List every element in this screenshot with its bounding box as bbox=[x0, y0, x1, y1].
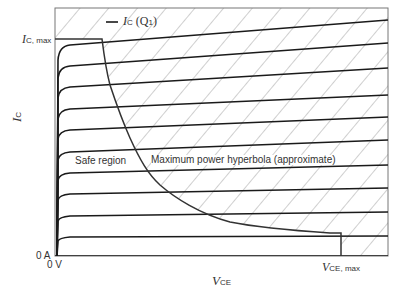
legend-close: ) bbox=[153, 14, 157, 28]
x-axis-sub: CE bbox=[220, 278, 231, 287]
safe-region-label: Safe region bbox=[75, 156, 126, 166]
y-axis-main: I bbox=[9, 118, 24, 122]
x-axis-main: V bbox=[212, 273, 220, 288]
zero-volt-label: 0 V bbox=[47, 260, 62, 270]
legend-sub: C bbox=[127, 18, 133, 27]
hyperbola-label: Maximum power hyperbola (approximate) bbox=[151, 155, 336, 165]
soa-diagram bbox=[0, 0, 397, 290]
y-axis-sub: C bbox=[14, 112, 23, 118]
ic-max-sub: C, max bbox=[26, 36, 51, 45]
y-axis-label: IC bbox=[10, 112, 23, 122]
ic-max-label: IC, max bbox=[22, 33, 51, 45]
curve-10 bbox=[57, 236, 388, 256]
vce-max-label: VCE, max bbox=[322, 261, 360, 273]
legend-label: IC (Q1) bbox=[123, 15, 157, 27]
legend-paren: (Q bbox=[136, 14, 149, 28]
vce-max-sub: CE, max bbox=[329, 264, 360, 273]
x-axis-label: VCE bbox=[212, 274, 231, 287]
